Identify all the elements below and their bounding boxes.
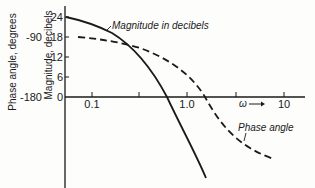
ytick-0: 0 (57, 91, 63, 103)
y-axis-title-magnitude: Magnitude, decibels (43, 11, 54, 100)
xtick-10: 10 (278, 98, 290, 110)
xtick-1.0: 1.0 (179, 98, 194, 110)
magnitude-annotation: Magnitude in decibels (112, 20, 209, 31)
ytick-6: 6 (57, 71, 63, 83)
phase-leader-line (244, 133, 246, 141)
y-axis-title-phase: Phase angle, degrees (7, 13, 18, 110)
phase-tick-180: -180 (20, 91, 42, 103)
x-axis-omega-label: ω (239, 98, 247, 109)
phase-annotation: Phase angle (238, 122, 294, 133)
bode-plot: 24 18 12 6 0 -90 -180 Magnitude, decibel… (0, 0, 315, 188)
magnitude-leader-line (106, 26, 111, 31)
xtick-0.1: 0.1 (84, 98, 99, 110)
phase-tick-90: -90 (26, 31, 42, 43)
x-ticks (92, 92, 284, 97)
arrowhead-icon (261, 102, 265, 107)
